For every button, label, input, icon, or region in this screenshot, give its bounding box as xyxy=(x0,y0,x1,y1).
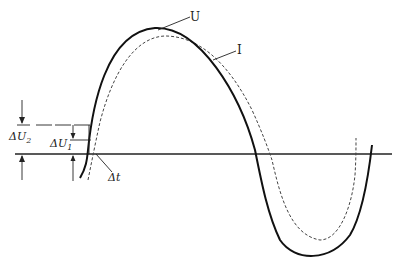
delta-u2-arrow-bottom-head xyxy=(19,155,25,162)
delta-u1-sub: 1 xyxy=(67,143,72,152)
voltage-label: U xyxy=(190,11,200,23)
delta-u2-main: ΔU xyxy=(9,130,26,143)
delta-u1-main: ΔU xyxy=(50,137,67,150)
delta-u2-arrow-top-head xyxy=(19,117,25,124)
current-curve-dashed xyxy=(88,36,356,240)
u-leader-line xyxy=(158,17,190,30)
voltage-curve xyxy=(80,28,372,256)
waveform-diagram xyxy=(0,0,403,269)
current-label: I xyxy=(237,44,242,56)
delta-t-label: Δt xyxy=(108,172,120,183)
delta-u1-arrow-bottom-head xyxy=(71,155,76,161)
current-curve xyxy=(87,35,320,242)
delta-u2-label: ΔU2 xyxy=(9,131,31,145)
delta-t-leader-line xyxy=(96,154,112,172)
delta-u1-label: ΔU1 xyxy=(50,138,72,152)
delta-u2-sub: 2 xyxy=(26,136,31,145)
i-leader-line xyxy=(213,51,236,60)
